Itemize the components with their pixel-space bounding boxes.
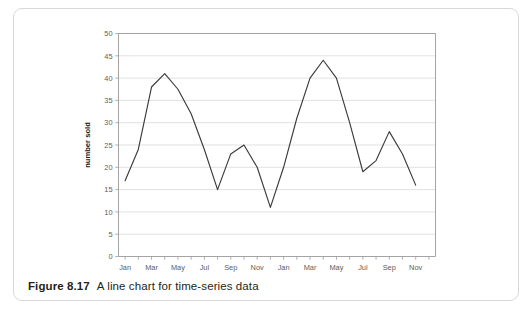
y-tick-label: 45: [104, 52, 112, 61]
x-tick-label: Sep: [383, 263, 396, 272]
figure-caption: Figure 8.17A line chart for time-series …: [28, 280, 259, 292]
y-tick-label: 5: [108, 230, 112, 239]
x-tick-label: Nov: [251, 263, 264, 272]
y-tick-label: 15: [104, 185, 112, 194]
x-tick-label: Jul: [200, 263, 210, 272]
x-tick-label: Mar: [304, 263, 317, 272]
y-tick-label: 50: [104, 29, 112, 38]
y-axis-labels-group: 05101520253035404550: [104, 29, 112, 261]
figure-page: 05101520253035404550 JanMarMayJulSepNovJ…: [0, 0, 531, 313]
x-tick-label: Jul: [358, 263, 368, 272]
data-series-line: [125, 60, 416, 207]
x-axis-ticks-group: [125, 257, 429, 260]
line-chart: 05101520253035404550 JanMarMayJulSepNovJ…: [0, 0, 531, 313]
x-tick-label: May: [171, 263, 185, 272]
y-tick-label: 35: [104, 96, 112, 105]
y-tick-label: 30: [104, 118, 112, 127]
y-axis-ticks-group: [115, 34, 118, 257]
x-tick-label: Nov: [409, 263, 422, 272]
y-tick-label: 10: [104, 208, 112, 217]
x-axis-labels-group: JanMarMayJulSepNovJanMarMayJulSepNov: [119, 263, 422, 272]
x-tick-label: Mar: [145, 263, 158, 272]
y-tick-label: 20: [104, 163, 112, 172]
y-axis-title: number sold: [83, 122, 92, 168]
y-tick-label: 40: [104, 74, 112, 83]
y-tick-label: 0: [108, 252, 112, 261]
y-tick-label: 25: [104, 141, 112, 150]
caption-text: A line chart for time-series data: [90, 280, 259, 292]
x-tick-label: Jan: [119, 263, 131, 272]
chart-svg: 05101520253035404550 JanMarMayJulSepNovJ…: [0, 0, 531, 313]
x-tick-label: May: [329, 263, 343, 272]
x-tick-label: Sep: [224, 263, 237, 272]
caption-number: Figure 8.17: [28, 280, 90, 292]
x-tick-label: Jan: [278, 263, 290, 272]
